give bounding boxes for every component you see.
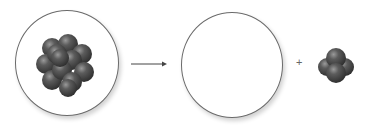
plus-sign: + <box>296 56 302 68</box>
nucleus-cluster-icon <box>36 34 94 97</box>
alpha-particle-icon <box>318 48 354 83</box>
right-arrow-icon <box>131 62 167 67</box>
